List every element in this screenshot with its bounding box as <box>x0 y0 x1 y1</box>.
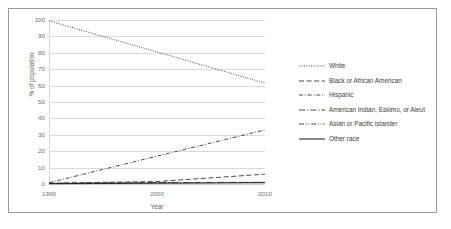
legend-label: American Indian, Eskimo, or Aleut <box>329 107 425 113</box>
legend-label: White <box>329 63 345 69</box>
x-axis-title: Year <box>49 203 265 210</box>
legend-line-swatch <box>299 119 325 129</box>
legend-label: Asian or Pacific Islander <box>329 121 398 127</box>
legend-line-swatch <box>299 105 325 115</box>
legend-label: Hispanic <box>329 92 354 98</box>
legend-line-swatch <box>299 90 325 100</box>
y-axis-tick-label: 40 <box>21 115 45 121</box>
legend-line-swatch <box>299 76 325 86</box>
y-axis-title: % of population <box>28 35 35 115</box>
legend-item[interactable]: White <box>299 59 439 74</box>
legend-item[interactable]: Hispanic <box>299 88 439 103</box>
legend: WhiteBlack or African AmericanHispanicAm… <box>299 59 439 146</box>
series-line <box>49 130 265 183</box>
legend-label: Black or African American <box>329 78 402 84</box>
y-axis-tick-label: 10 <box>21 164 45 170</box>
legend-label: Other race <box>329 136 359 142</box>
legend-line-swatch <box>299 134 325 144</box>
x-axis-tick-label: 2010 <box>258 191 272 197</box>
series-lines <box>49 20 265 184</box>
x-axis-tick-labels: 199020002010 <box>49 191 265 201</box>
y-axis-tick-label: 100 <box>21 17 45 23</box>
series-line <box>49 21 265 83</box>
gridline <box>49 184 265 185</box>
legend-line-swatch <box>299 61 325 71</box>
legend-item[interactable]: Other race <box>299 132 439 147</box>
x-axis-tick-label: 2000 <box>150 191 164 197</box>
series-line <box>49 174 265 183</box>
chart-frame: 0102030405060708090100 199020002010 % of… <box>8 8 437 213</box>
y-axis-tick-label: 0 <box>21 181 45 187</box>
y-axis-tick-label: 20 <box>21 148 45 154</box>
y-axis-tick-label: 30 <box>21 132 45 138</box>
legend-item[interactable]: American Indian, Eskimo, or Aleut <box>299 103 439 118</box>
legend-item[interactable]: Black or African American <box>299 74 439 89</box>
legend-item[interactable]: Asian or Pacific Islander <box>299 117 439 132</box>
x-axis-tick-label: 1990 <box>42 191 56 197</box>
